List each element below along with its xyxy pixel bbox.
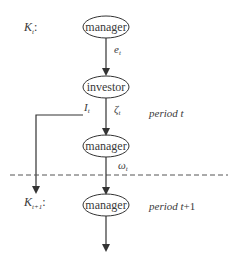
svg-text:manager: manager [85,20,126,34]
svg-text:ζt: ζt [114,103,121,117]
svg-text:period t+1: period t+1 [148,200,195,212]
edge-label-i: It [83,101,91,115]
svg-text:manager: manager [85,198,126,212]
edge-label-e: et [114,43,122,57]
svg-text:investor: investor [87,80,126,94]
svg-text:ωt: ωt [118,159,129,173]
svg-text:et: et [114,43,122,57]
edge-label-omega: ωt [118,159,129,173]
edge-label-zeta: ζt [114,103,121,117]
arrow-investment-to-next-state [36,115,83,190]
node-manager-top: manager [83,16,129,38]
timeline-diagram: Kt: manager et investor ζt It period t m… [0,0,236,258]
svg-text:manager: manager [85,139,126,153]
node-manager-middle: manager [83,135,129,157]
period-label-t-plus-1: period t+1 [148,200,195,212]
node-investor: investor [83,76,129,98]
state-label-kt: Kt: [23,20,37,36]
node-manager-bottom: manager [83,194,129,216]
period-label-t: period t [148,107,184,119]
svg-text:period t: period t [148,107,184,119]
svg-text:Kt+1:: Kt+1: [23,195,46,211]
state-label-kt1: Kt+1: [23,195,46,211]
svg-text:Kt:: Kt: [23,20,37,36]
svg-text:It: It [83,101,91,115]
